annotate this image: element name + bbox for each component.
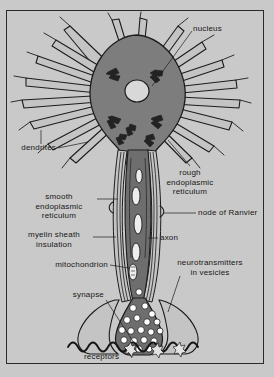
label-receptors: receptors [84,352,119,362]
label-smooth-endoplasmic-reticulum: smooth endoplasmic reticulum [22,192,96,221]
label-rough-endoplasmic-reticulum: rough endoplasmic reticulum [150,168,230,197]
label-mitochondrion: mitochondrion [34,260,108,270]
label-nucleus: nucleus [193,24,222,34]
label-axon: axon [160,233,178,243]
mitochondrion-shape [129,264,137,280]
label-node-of-ranvier: node of Ranvier [198,208,257,218]
label-dendrites: dendrites [8,143,56,153]
neuron-diagram-figure: nucleus dendrites rough endoplasmic reti… [0,0,274,377]
label-synapse: synapse [52,290,104,300]
neuron-illustration [0,0,274,377]
nucleus-shape [125,80,149,102]
label-myelin-sheath-insulation: myelin sheath insulation [16,230,92,249]
label-neurotransmitters-in-vesicles: neurotransmitters in vesicles [160,258,260,277]
